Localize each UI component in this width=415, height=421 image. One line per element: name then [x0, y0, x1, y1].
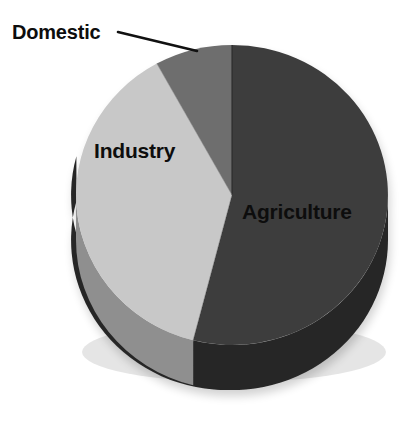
slice-label-industry: Industry — [94, 139, 175, 163]
pie-chart: Domestic Industry Agriculture — [0, 0, 415, 421]
pie-chart-graphic — [0, 0, 415, 421]
domestic-leader-line — [118, 32, 197, 51]
slice-label-domestic: Domestic — [12, 21, 100, 44]
slice-label-agriculture: Agriculture — [242, 200, 352, 224]
